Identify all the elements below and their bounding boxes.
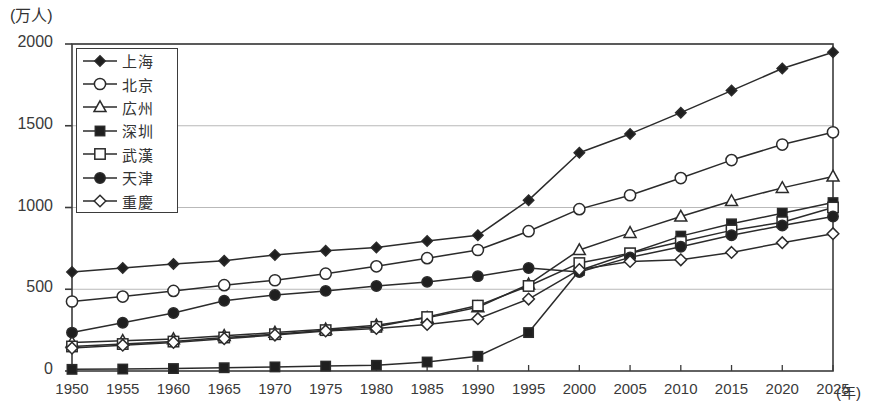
legend-label: 重慶: [122, 191, 153, 212]
series-markers-5: [67, 211, 838, 337]
series-line: [72, 234, 833, 348]
legend-item-2[interactable]: 広州: [77, 96, 177, 119]
series-line: [72, 52, 833, 272]
series-markers-0: [67, 47, 838, 277]
y-tick-label: 2000: [0, 33, 62, 51]
legend-label: 上海: [122, 50, 153, 71]
series-markers-3: [67, 198, 837, 374]
y-tick-label: 500: [0, 278, 62, 296]
series-markers-1: [66, 127, 838, 307]
legend-marker-icon: [81, 97, 119, 117]
cut-off-caption: [0, 408, 875, 416]
series-line: [72, 176, 833, 342]
legend-item-1[interactable]: 北京: [77, 72, 177, 95]
legend-item-0[interactable]: 上海: [77, 49, 177, 72]
legend-item-4[interactable]: 武漢: [77, 143, 177, 166]
legend-item-5[interactable]: 天津: [77, 166, 177, 189]
legend-label: 深圳: [122, 120, 153, 141]
series-1: [72, 132, 833, 301]
legend-marker-icon: [81, 121, 119, 141]
legend-item-6[interactable]: 重慶: [77, 189, 177, 212]
legend-label: 広州: [122, 97, 153, 118]
series-6: [72, 234, 833, 348]
legend-label: 天津: [122, 167, 153, 188]
series-line: [72, 208, 833, 347]
legend-label: 北京: [122, 74, 153, 95]
legend-label: 武漢: [122, 144, 153, 165]
series-0: [72, 52, 833, 272]
series-markers-6: [66, 228, 839, 354]
legend-item-3[interactable]: 深圳: [77, 119, 177, 142]
series-markers-4: [67, 202, 838, 351]
x-tick-label: 2025: [803, 380, 863, 397]
series-line: [72, 132, 833, 301]
legend-marker-icon: [81, 191, 119, 211]
y-tick-label: 1500: [0, 115, 62, 133]
series-4: [72, 208, 833, 347]
population-line-chart: (万人) (年) 上海北京広州深圳武漢天津重慶 0500100015002000…: [0, 0, 875, 416]
series-3: [72, 203, 833, 370]
y-tick-label: 0: [0, 360, 62, 378]
y-tick-label: 1000: [0, 197, 62, 215]
series-line: [72, 203, 833, 370]
legend: 上海北京広州深圳武漢天津重慶: [76, 48, 178, 213]
series-2: [72, 176, 833, 342]
legend-marker-icon: [81, 168, 119, 188]
legend-marker-icon: [81, 74, 119, 94]
series-markers-2: [66, 170, 839, 347]
legend-marker-icon: [81, 51, 119, 71]
legend-marker-icon: [81, 144, 119, 164]
